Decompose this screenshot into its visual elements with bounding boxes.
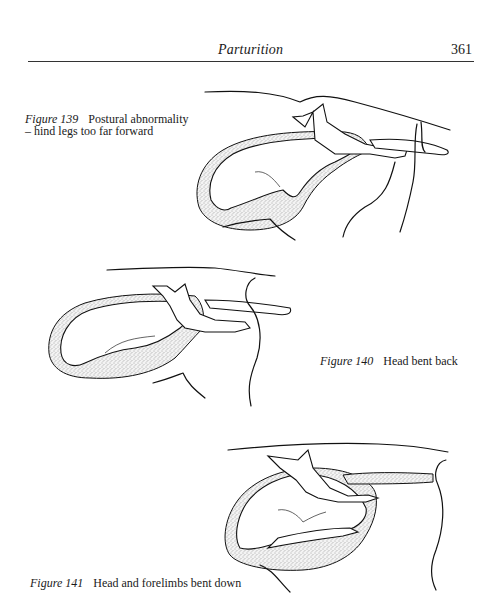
figure-139-illustration	[195, 82, 455, 240]
figure-141-caption: Figure 141Head and forelimbs bent down	[30, 578, 241, 590]
page-number: 361	[451, 42, 472, 58]
running-head: Parturition 361	[28, 42, 474, 60]
figure-141-text: Head and forelimbs bent down	[93, 576, 241, 590]
figure-140-text: Head bent back	[383, 354, 458, 368]
figure-140-label: Figure 140	[320, 354, 373, 368]
header-rule	[28, 61, 474, 62]
figure-141-label: Figure 141	[30, 576, 83, 590]
figure-140-caption: Figure 140Head bent back	[320, 356, 458, 368]
figure-140-illustration	[45, 258, 290, 413]
running-title: Parturition	[218, 42, 283, 58]
figure-141-illustration	[218, 440, 453, 595]
figure-139-caption: Figure 139Postural abnormality – hind le…	[25, 114, 190, 137]
